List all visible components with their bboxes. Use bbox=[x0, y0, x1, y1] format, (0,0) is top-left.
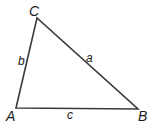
side-label-c: c bbox=[67, 108, 73, 122]
side-label-b: b bbox=[18, 54, 25, 68]
triangle-svg: C A B b a c bbox=[0, 0, 155, 126]
vertex-label-b: B bbox=[138, 108, 147, 124]
vertex-label-a: A bbox=[5, 108, 15, 124]
triangle-abc bbox=[16, 18, 138, 109]
triangle-diagram: C A B b a c bbox=[0, 0, 155, 126]
side-label-a: a bbox=[86, 51, 93, 65]
vertex-label-c: C bbox=[29, 3, 40, 19]
